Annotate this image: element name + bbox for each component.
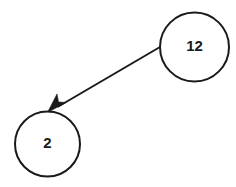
node-2[interactable]: 2 [15,112,80,177]
node-12[interactable]: 12 [160,13,229,82]
node-2-label: 2 [43,134,51,151]
edge-line [58,47,161,107]
graph-diagram: 12 2 [0,0,236,187]
arrowhead-icon [48,94,67,113]
edge-12-to-2[interactable] [48,47,161,113]
node-12-label: 12 [186,37,203,54]
diagram-canvas: 12 2 [0,0,236,187]
